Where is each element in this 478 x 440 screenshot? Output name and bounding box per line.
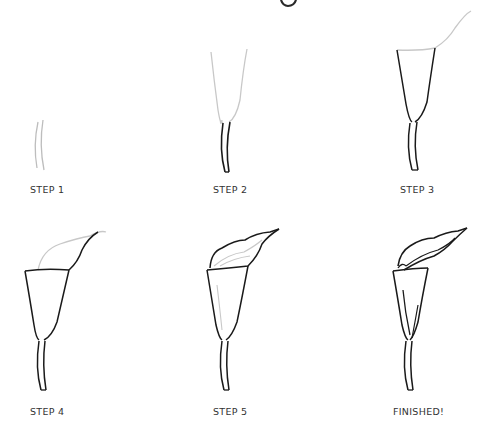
- step-2-label: STEP 2: [213, 184, 247, 195]
- step3-drawing: [397, 11, 471, 170]
- step-3-label: STEP 3: [400, 184, 434, 195]
- step5-drawing: [207, 229, 279, 390]
- step2-drawing: [211, 49, 247, 172]
- step4-drawing: [25, 232, 106, 391]
- drawing-canvas: [0, 0, 478, 440]
- finished-drawing: [393, 228, 467, 390]
- step-1-label: STEP 1: [30, 184, 64, 195]
- step-4-label: STEP 4: [30, 406, 64, 417]
- calla-lily-tutorial: STEP 1 STEP 2 STEP 3 STEP 4 STEP 5 FINIS…: [0, 0, 478, 440]
- step1-drawing: [35, 120, 44, 170]
- finished-label: FINISHED!: [393, 406, 444, 417]
- title-fragment-glyph: [281, 0, 296, 6]
- step-5-label: STEP 5: [213, 406, 247, 417]
